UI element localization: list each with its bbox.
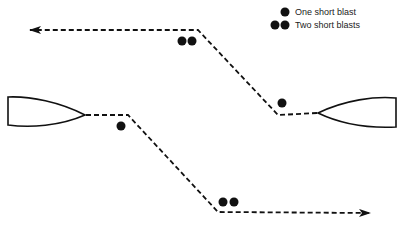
legend-item-one-blast: One short blast bbox=[281, 7, 357, 17]
two-blast-signal-top bbox=[178, 37, 197, 46]
left-vessel-hull bbox=[8, 97, 85, 126]
legend-label-one: One short blast bbox=[295, 7, 357, 17]
right-vessel-hull bbox=[318, 98, 396, 128]
two-blast-signal-bottom bbox=[219, 198, 239, 207]
two-dots-icon-b bbox=[281, 21, 290, 30]
legend: One short blast Two short blasts bbox=[271, 7, 361, 30]
one-blast-signal-right bbox=[278, 99, 287, 108]
right-vessel-track bbox=[30, 30, 317, 115]
meeting-vessels-diagram: One short blast Two short blasts bbox=[0, 0, 405, 228]
legend-label-two: Two short blasts bbox=[295, 20, 361, 30]
one-blast-signal-left bbox=[117, 122, 126, 131]
two-dots-icon-a bbox=[271, 21, 280, 30]
one-dot-icon bbox=[281, 8, 290, 17]
legend-item-two-blasts: Two short blasts bbox=[271, 20, 361, 30]
left-vessel-track bbox=[86, 115, 370, 213]
